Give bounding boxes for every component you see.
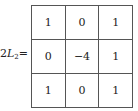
grid-cell: 1	[32, 74, 66, 108]
label-suffix: =	[19, 47, 28, 60]
kernel-label: 2L2=	[0, 46, 32, 62]
grid-cell: 0	[32, 40, 66, 74]
grid-cell: 0	[65, 6, 99, 40]
grid-cell: −4	[65, 40, 99, 74]
grid-row: 1 0 1	[32, 6, 133, 40]
grid-cell: 1	[99, 74, 133, 108]
kernel-grid: 1 0 1 0 −4 1 1 0 1	[31, 5, 133, 108]
label-prefix: 2	[0, 47, 7, 60]
grid-cell: 1	[99, 40, 133, 74]
grid-row: 0 −4 1	[32, 40, 133, 74]
grid-row: 1 0 1	[32, 74, 133, 108]
grid-cell: 1	[32, 6, 66, 40]
grid-cell: 0	[65, 74, 99, 108]
grid-cell: 1	[99, 6, 133, 40]
